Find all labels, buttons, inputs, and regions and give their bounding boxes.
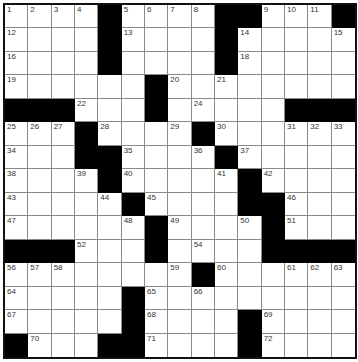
grid-cell[interactable]: 39 bbox=[75, 169, 98, 192]
grid-cell[interactable] bbox=[332, 216, 355, 239]
grid-cell[interactable] bbox=[75, 52, 98, 75]
grid-cell[interactable] bbox=[215, 99, 238, 122]
grid-cell[interactable] bbox=[238, 240, 261, 263]
grid-cell[interactable]: 1 bbox=[5, 5, 28, 28]
grid-cell[interactable]: 56 bbox=[5, 263, 28, 286]
grid-cell[interactable] bbox=[262, 146, 285, 169]
grid-cell[interactable] bbox=[285, 310, 308, 333]
grid-cell[interactable]: 30 bbox=[215, 122, 238, 145]
grid-cell[interactable] bbox=[238, 263, 261, 286]
grid-cell[interactable]: 3 bbox=[52, 5, 75, 28]
grid-cell[interactable] bbox=[168, 99, 191, 122]
grid-cell[interactable] bbox=[262, 263, 285, 286]
grid-cell[interactable]: 2 bbox=[28, 5, 51, 28]
grid-cell[interactable] bbox=[332, 75, 355, 98]
grid-cell[interactable] bbox=[285, 28, 308, 51]
grid-cell[interactable]: 18 bbox=[238, 52, 261, 75]
grid-cell[interactable]: 44 bbox=[98, 193, 121, 216]
grid-cell[interactable] bbox=[122, 99, 145, 122]
grid-cell[interactable] bbox=[215, 310, 238, 333]
grid-cell[interactable] bbox=[52, 287, 75, 310]
grid-cell[interactable] bbox=[145, 122, 168, 145]
grid-cell[interactable]: 16 bbox=[5, 52, 28, 75]
grid-cell[interactable] bbox=[168, 169, 191, 192]
grid-cell[interactable]: 72 bbox=[262, 334, 285, 357]
grid-cell[interactable]: 29 bbox=[168, 122, 191, 145]
grid-cell[interactable] bbox=[262, 99, 285, 122]
grid-cell[interactable] bbox=[98, 240, 121, 263]
grid-cell[interactable]: 47 bbox=[5, 216, 28, 239]
grid-cell[interactable] bbox=[28, 216, 51, 239]
grid-cell[interactable] bbox=[285, 287, 308, 310]
grid-cell[interactable]: 59 bbox=[168, 263, 191, 286]
grid-cell[interactable] bbox=[122, 240, 145, 263]
grid-cell[interactable] bbox=[238, 75, 261, 98]
grid-cell[interactable]: 60 bbox=[215, 263, 238, 286]
grid-cell[interactable] bbox=[308, 216, 331, 239]
grid-cell[interactable]: 26 bbox=[28, 122, 51, 145]
grid-cell[interactable] bbox=[168, 146, 191, 169]
grid-cell[interactable] bbox=[52, 310, 75, 333]
grid-cell[interactable]: 38 bbox=[5, 169, 28, 192]
grid-cell[interactable]: 25 bbox=[5, 122, 28, 145]
grid-cell[interactable] bbox=[145, 146, 168, 169]
grid-cell[interactable] bbox=[192, 75, 215, 98]
grid-cell[interactable]: 33 bbox=[332, 122, 355, 145]
grid-cell[interactable]: 37 bbox=[238, 146, 261, 169]
grid-cell[interactable]: 65 bbox=[145, 287, 168, 310]
grid-cell[interactable]: 43 bbox=[5, 193, 28, 216]
grid-cell[interactable] bbox=[52, 146, 75, 169]
grid-cell[interactable] bbox=[332, 334, 355, 357]
grid-cell[interactable]: 71 bbox=[145, 334, 168, 357]
grid-cell[interactable]: 40 bbox=[122, 169, 145, 192]
grid-cell[interactable] bbox=[308, 334, 331, 357]
grid-cell[interactable] bbox=[168, 310, 191, 333]
grid-cell[interactable]: 70 bbox=[28, 334, 51, 357]
grid-cell[interactable] bbox=[98, 75, 121, 98]
grid-cell[interactable] bbox=[285, 75, 308, 98]
grid-cell[interactable] bbox=[28, 310, 51, 333]
grid-cell[interactable] bbox=[75, 287, 98, 310]
grid-cell[interactable] bbox=[215, 216, 238, 239]
grid-cell[interactable]: 67 bbox=[5, 310, 28, 333]
grid-cell[interactable]: 49 bbox=[168, 216, 191, 239]
grid-cell[interactable] bbox=[285, 146, 308, 169]
grid-cell[interactable] bbox=[285, 52, 308, 75]
grid-cell[interactable]: 61 bbox=[285, 263, 308, 286]
grid-cell[interactable] bbox=[28, 146, 51, 169]
grid-cell[interactable] bbox=[52, 216, 75, 239]
grid-cell[interactable] bbox=[145, 28, 168, 51]
grid-cell[interactable] bbox=[122, 122, 145, 145]
grid-cell[interactable]: 21 bbox=[215, 75, 238, 98]
grid-cell[interactable] bbox=[192, 216, 215, 239]
grid-cell[interactable] bbox=[215, 193, 238, 216]
grid-cell[interactable]: 51 bbox=[285, 216, 308, 239]
grid-cell[interactable]: 14 bbox=[238, 28, 261, 51]
grid-cell[interactable]: 31 bbox=[285, 122, 308, 145]
grid-cell[interactable] bbox=[238, 99, 261, 122]
grid-cell[interactable]: 57 bbox=[28, 263, 51, 286]
grid-cell[interactable] bbox=[75, 334, 98, 357]
grid-cell[interactable]: 20 bbox=[168, 75, 191, 98]
grid-cell[interactable] bbox=[52, 169, 75, 192]
grid-cell[interactable]: 12 bbox=[5, 28, 28, 51]
grid-cell[interactable]: 7 bbox=[168, 5, 191, 28]
grid-cell[interactable] bbox=[122, 75, 145, 98]
grid-cell[interactable] bbox=[262, 287, 285, 310]
grid-cell[interactable] bbox=[262, 28, 285, 51]
grid-cell[interactable] bbox=[98, 99, 121, 122]
grid-cell[interactable]: 34 bbox=[5, 146, 28, 169]
grid-cell[interactable]: 6 bbox=[145, 5, 168, 28]
grid-cell[interactable] bbox=[332, 310, 355, 333]
grid-cell[interactable] bbox=[215, 287, 238, 310]
grid-cell[interactable] bbox=[332, 146, 355, 169]
grid-cell[interactable] bbox=[75, 216, 98, 239]
grid-cell[interactable] bbox=[28, 169, 51, 192]
grid-cell[interactable] bbox=[308, 146, 331, 169]
grid-cell[interactable] bbox=[192, 52, 215, 75]
grid-cell[interactable] bbox=[308, 75, 331, 98]
grid-cell[interactable] bbox=[28, 52, 51, 75]
grid-cell[interactable] bbox=[52, 193, 75, 216]
grid-cell[interactable] bbox=[168, 287, 191, 310]
grid-cell[interactable] bbox=[52, 75, 75, 98]
